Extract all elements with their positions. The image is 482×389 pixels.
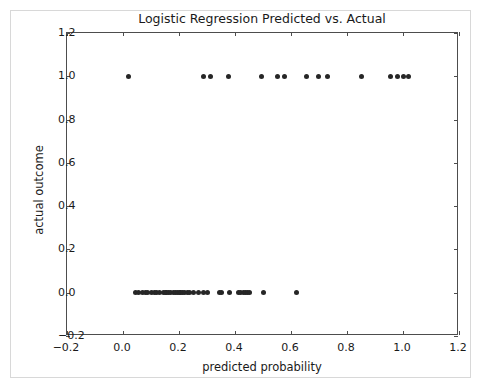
scatter-point xyxy=(259,74,264,79)
scatter-point xyxy=(282,74,287,79)
scatter-point xyxy=(395,74,400,79)
x-tick-mark-top xyxy=(179,32,180,36)
y-tick-mark-right xyxy=(454,336,458,337)
x-tick-mark xyxy=(291,331,292,335)
y-tick-mark-right xyxy=(454,76,458,77)
y-tick-mark-right xyxy=(454,33,458,34)
x-tick-mark-top xyxy=(291,32,292,36)
scatter-point xyxy=(205,290,210,295)
y-tick-mark-right xyxy=(454,293,458,294)
x-tick-label: −0.2 xyxy=(53,341,80,354)
y-axis-label: actual outcome xyxy=(32,110,46,270)
scatter-point xyxy=(261,290,266,295)
matplotlib-figure: Logistic Regression Predicted vs. Actual… xyxy=(0,0,482,389)
x-tick-label: 0.8 xyxy=(337,341,355,354)
y-tick-mark-right xyxy=(454,249,458,250)
x-tick-label: 0.0 xyxy=(113,341,131,354)
plot-area xyxy=(66,32,458,335)
x-tick-mark xyxy=(459,331,460,335)
x-tick-label: 0.6 xyxy=(281,341,299,354)
x-tick-label: 1.2 xyxy=(449,341,467,354)
x-tick-mark xyxy=(179,331,180,335)
x-tick-mark xyxy=(403,331,404,335)
scatter-point xyxy=(227,290,232,295)
scatter-point xyxy=(406,74,411,79)
scatter-point xyxy=(401,74,406,79)
scatter-point xyxy=(126,74,131,79)
scatter-point xyxy=(316,74,321,79)
scatter-point xyxy=(359,74,364,79)
y-tick-mark-right xyxy=(454,120,458,121)
x-tick-label: 1.0 xyxy=(393,341,411,354)
scatter-point xyxy=(275,74,280,79)
scatter-point xyxy=(247,290,252,295)
y-tick-mark-right xyxy=(454,206,458,207)
scatter-point xyxy=(191,290,196,295)
x-tick-label: 0.2 xyxy=(169,341,187,354)
x-tick-mark xyxy=(235,331,236,335)
y-tick-mark-right xyxy=(454,163,458,164)
scatter-point xyxy=(388,74,393,79)
x-tick-mark-top xyxy=(347,32,348,36)
scatter-point xyxy=(294,290,299,295)
scatter-point xyxy=(196,290,201,295)
x-tick-label: 0.4 xyxy=(225,341,243,354)
scatter-point xyxy=(208,74,213,79)
scatter-point xyxy=(219,290,224,295)
x-tick-mark-top xyxy=(459,32,460,36)
x-tick-mark-top xyxy=(235,32,236,36)
x-tick-mark xyxy=(347,331,348,335)
page-title: Logistic Regression Predicted vs. Actual xyxy=(66,11,458,26)
x-tick-mark xyxy=(123,331,124,335)
scatter-point xyxy=(325,74,330,79)
x-axis-label: predicted probability xyxy=(66,360,458,374)
scatter-point xyxy=(201,74,206,79)
scatter-point xyxy=(226,74,231,79)
scatter-point xyxy=(304,74,309,79)
x-tick-mark-top xyxy=(123,32,124,36)
x-tick-mark-top xyxy=(403,32,404,36)
